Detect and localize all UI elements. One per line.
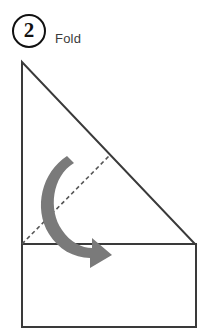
step-number-text: 2 xyxy=(24,20,35,41)
step-label-text: Fold xyxy=(55,31,81,46)
step-header: 2 Fold xyxy=(0,0,208,56)
step-number-badge: 2 xyxy=(12,14,46,48)
fold-diagram xyxy=(0,50,208,334)
fold-step-diagram-page: 2 Fold xyxy=(0,0,208,334)
diagram-svg xyxy=(0,50,208,334)
